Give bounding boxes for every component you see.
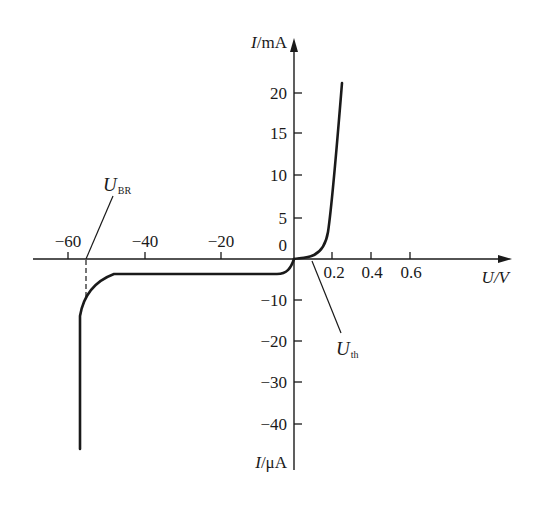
ubr-leader-line [86,196,113,259]
y-tick-label: 5 [279,209,288,228]
diode-iv-chart: −60 −40 −20 0.2 0.4 0.6 20 15 10 5 0 −10… [0,0,538,506]
x-tick-label: −60 [55,232,82,251]
y-axis-label-top: I/mA [250,33,288,52]
forward-characteristic-curve [294,83,342,259]
uth-symbol: U [336,338,351,359]
y-axis-arrow-icon [290,38,298,52]
x-tick-label: −20 [208,232,235,251]
y-axis-unit: /mA [257,33,288,52]
ubr-label: UBR [103,174,131,196]
x-tick-label: 0.6 [400,263,421,282]
y-tick-label: −10 [260,291,287,310]
uth-subscript: th [351,349,359,360]
y-tick-label: −40 [260,415,287,434]
y-axis [290,38,302,470]
y-tick-label: 10 [270,166,287,185]
chart-canvas: −60 −40 −20 0.2 0.4 0.6 20 15 10 5 0 −10… [0,0,538,506]
x-tick-label: 0.4 [361,263,383,282]
y-axis-label-bottom: I/μA [254,453,288,472]
x-axis-arrow-icon [498,255,512,263]
y-tick-label: −20 [260,332,287,351]
x-tick-label: −40 [132,232,159,251]
uth-label: Uth [336,338,359,360]
x-axis [33,252,512,263]
ubr-symbol: U [103,174,118,195]
y-tick-label: 15 [270,124,287,143]
y-tick-label: 20 [270,84,287,103]
x-axis-unit: /V [493,268,512,287]
origin-label: 0 [279,236,288,255]
ubr-subscript: BR [118,185,132,196]
y-tick-label: −30 [260,373,287,392]
x-tick-label: 0.2 [323,263,344,282]
x-axis-label: U/V [482,268,512,287]
y-axis-unit: /μA [261,453,288,472]
